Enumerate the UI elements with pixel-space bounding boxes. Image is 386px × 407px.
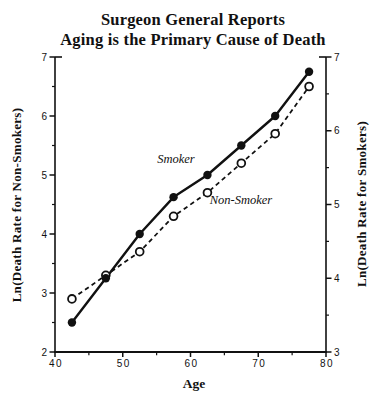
non-smoker-point (237, 159, 245, 167)
non-smoker-point (136, 248, 144, 256)
right-axis-label: Ln(Death Rate for Smokers) (354, 121, 370, 287)
left-axis-tick-label: 7 (41, 52, 47, 63)
smoker-line (72, 72, 309, 323)
left-axis-tick-label: 4 (41, 229, 47, 240)
left-axis-tick-label: 6 (41, 111, 47, 122)
left-axis-label: Ln(Death Rate for Non-Smokers) (9, 108, 25, 303)
smoker-point (305, 68, 313, 76)
chart-figure: Surgeon General Reports Aging is the Pri… (0, 0, 386, 407)
x-axis-tick-label: 60 (184, 358, 198, 369)
right-axis-tick-label: 3 (334, 347, 340, 358)
smoker-point (102, 274, 110, 282)
smoker-point (271, 112, 279, 120)
right-axis-tick-label: 5 (334, 199, 340, 210)
x-axis-label: Age (183, 376, 206, 392)
smoker-point (169, 193, 177, 201)
x-axis-tick-label: 50 (117, 358, 131, 369)
right-axis-tick-label: 6 (334, 125, 340, 136)
smoker-point (237, 141, 245, 149)
left-axis-tick-label: 3 (41, 288, 47, 299)
left-axis-tick-label: 2 (41, 347, 47, 358)
x-axis-tick-label: 40 (49, 358, 63, 369)
left-axis-tick-label: 5 (41, 170, 47, 181)
non-smoker-series-label: Non-Smoker (210, 193, 273, 208)
right-axis-tick-label: 4 (334, 273, 340, 284)
smoker-point (135, 230, 143, 238)
smoker-point (68, 318, 76, 326)
x-axis-tick-label: 70 (252, 358, 266, 369)
non-smoker-point (68, 295, 76, 303)
right-axis-tick-label: 7 (334, 52, 340, 63)
smoker-series-label: Smoker (157, 152, 195, 167)
x-axis-tick-label: 80 (320, 358, 334, 369)
chart-svg: 234567345674050607080 (0, 0, 386, 407)
non-smoker-point (305, 83, 313, 91)
non-smoker-point (271, 130, 279, 138)
non-smoker-point (170, 212, 178, 220)
smoker-point (203, 171, 211, 179)
